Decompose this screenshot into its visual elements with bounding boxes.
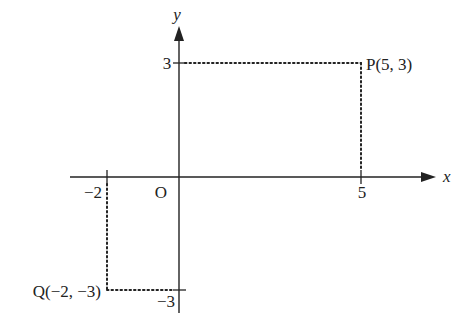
y-axis-label: y — [171, 5, 181, 24]
x-axis-label: x — [442, 167, 451, 186]
point-p-label: P(5, 3) — [366, 55, 412, 74]
x-tick-label-5: 5 — [358, 183, 367, 202]
origin-label: O — [155, 183, 167, 202]
x-tick-label-neg2: −2 — [84, 183, 102, 202]
x-axis-arrow-icon — [421, 172, 436, 182]
y-tick-label-neg3: −3 — [157, 292, 175, 311]
y-tick-label-3: 3 — [163, 54, 172, 73]
diagram-canvas: y x 3 5 −2 O −3 P(5, 3) Q(−2, −3) — [0, 0, 460, 330]
point-q-label: Q(−2, −3) — [33, 282, 101, 301]
coordinate-diagram: y x 3 5 −2 O −3 P(5, 3) Q(−2, −3) — [0, 0, 460, 330]
y-axis-arrow-icon — [174, 26, 184, 41]
